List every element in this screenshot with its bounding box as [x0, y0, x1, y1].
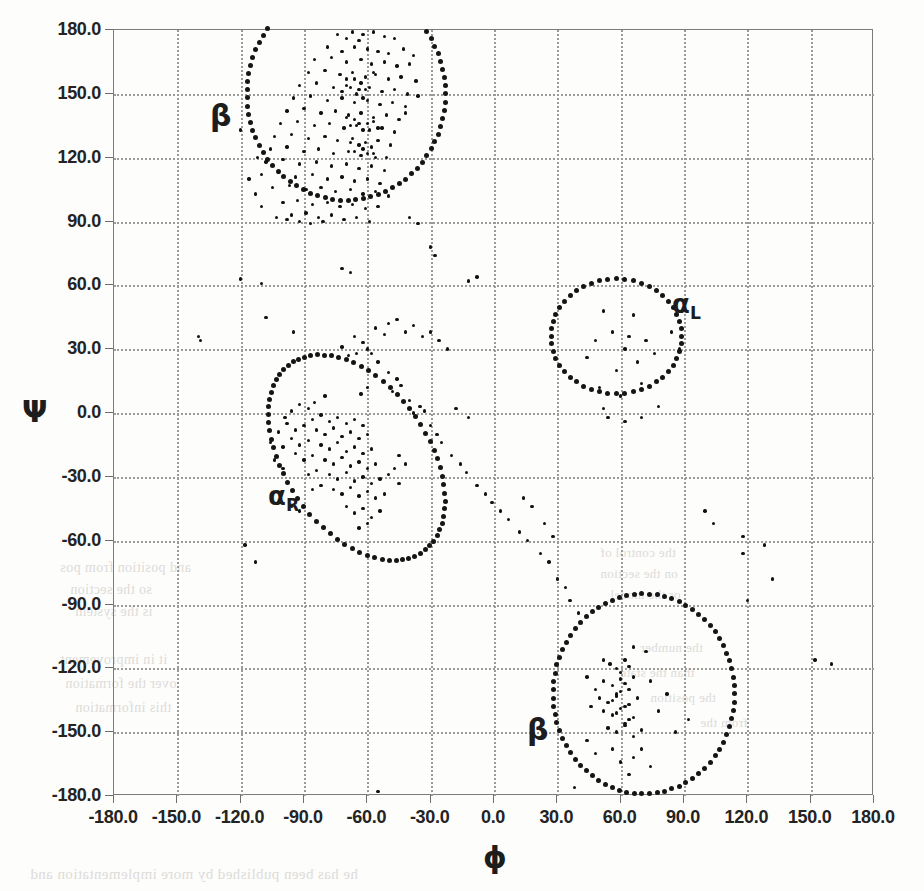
region-outline-dot [365, 553, 370, 558]
scatter-point [345, 37, 348, 40]
region-outline-dot [717, 636, 722, 641]
scatter-point [311, 418, 314, 421]
scatter-point [313, 401, 316, 404]
scatter-point [357, 122, 360, 125]
scatter-point [311, 173, 314, 176]
scatter-point [361, 507, 364, 510]
x-axis-tick [366, 795, 367, 803]
region-outline-dot [683, 603, 688, 608]
scatter-point [323, 69, 326, 72]
region-outline-dot [708, 760, 713, 765]
region-outline-dot [553, 356, 558, 361]
region-outline-dot [288, 179, 293, 184]
scatter-point [361, 475, 364, 478]
region-outline-dot [246, 71, 251, 76]
scatter-point [678, 347, 681, 350]
region-outline-dot [443, 499, 448, 504]
region-outline-dot [335, 537, 340, 542]
gridline-vertical [747, 30, 749, 796]
scatter-point [627, 335, 630, 338]
scatter-point [302, 424, 305, 427]
scatter-point [315, 160, 318, 163]
scatter-point [387, 194, 390, 197]
region-outline-dot [729, 716, 734, 721]
region-label-glyph: α [672, 289, 690, 319]
scatter-point [619, 690, 622, 693]
y-axis-tick [105, 348, 113, 349]
region-outline-dot [269, 437, 274, 442]
y-axis-tick-label: -90.0 [61, 593, 101, 614]
region-outline-dot [443, 100, 448, 105]
region-outline-dot [346, 198, 351, 203]
scatter-point [370, 164, 373, 167]
region-label-alpha-r: αR [268, 481, 299, 515]
region-outline-dot [296, 357, 301, 362]
region-outline-dot [564, 640, 569, 645]
region-outline-dot [368, 194, 373, 199]
scatter-point [611, 330, 614, 333]
region-outline-dot [605, 277, 610, 282]
y-axis-tick [105, 540, 113, 541]
scatter-point [370, 516, 373, 519]
region-outline-dot [246, 112, 251, 117]
region-outline-dot [560, 736, 565, 741]
scatter-point [746, 599, 749, 602]
region-outline-dot [610, 598, 615, 603]
region-label-glyph: β [210, 98, 231, 133]
region-outline-dot [551, 319, 556, 324]
scatter-point [387, 371, 390, 374]
scatter-points-layer [114, 30, 874, 796]
region-outline-dot [662, 594, 667, 599]
scatter-point [416, 222, 419, 225]
scatter-point [281, 158, 284, 161]
y-axis-tick-label: 0.0 [77, 402, 101, 423]
scatter-point [644, 650, 647, 653]
region-label-subscript: L [690, 303, 701, 323]
scatter-point [345, 450, 348, 453]
scatter-point [298, 443, 301, 446]
scatter-point [368, 128, 371, 131]
scatter-point [372, 71, 375, 74]
region-outline-dot [338, 198, 343, 203]
scatter-point [653, 352, 656, 355]
scatter-point [361, 341, 364, 344]
region-outline-dot [442, 75, 447, 80]
region-outline-dot [381, 379, 386, 384]
scatter-point [608, 662, 611, 665]
scatter-point [372, 120, 375, 123]
region-outline-dot [614, 276, 619, 281]
scatter-point [556, 577, 559, 580]
region-outline-dot [554, 662, 559, 667]
scatter-point [429, 245, 432, 248]
region-outline-dot [605, 391, 610, 396]
scatter-point [623, 705, 626, 708]
scatter-point [619, 671, 622, 674]
region-outline-dot [597, 278, 602, 283]
region-outline-dot [423, 431, 428, 436]
scatter-point [328, 122, 331, 125]
scatter-point [319, 413, 322, 416]
y-axis-tick-label: 180.0 [57, 19, 101, 40]
scatter-point [304, 211, 307, 214]
gridline-vertical [431, 30, 433, 796]
scatter-point [355, 92, 358, 95]
region-outline-dot [432, 448, 437, 453]
region-outline-dot [265, 157, 270, 162]
scatter-point [387, 77, 390, 80]
scatter-point [606, 416, 609, 419]
scatter-point [319, 443, 322, 446]
y-axis-tick [105, 29, 113, 30]
y-axis-tick-label: 60.0 [67, 274, 101, 295]
region-outline-dot [669, 596, 674, 601]
scatter-point [585, 356, 588, 359]
region-outline-dot [281, 367, 286, 372]
scatter-point [260, 205, 263, 208]
region-outline-dot [581, 284, 586, 289]
region-outline-dot [677, 784, 682, 789]
scatter-point [347, 150, 350, 153]
scatter-point [623, 724, 626, 727]
x-axis-tick-label: 30.0 [539, 807, 573, 828]
region-outline-dot [647, 791, 652, 796]
region-outline-dot [551, 679, 556, 684]
region-outline-dot [397, 181, 402, 186]
